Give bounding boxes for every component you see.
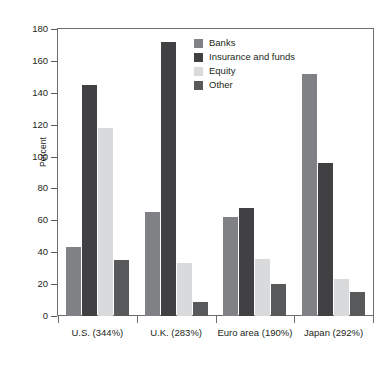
legend-item[interactable]: Other bbox=[194, 80, 295, 90]
legend-item[interactable]: Banks bbox=[194, 38, 295, 48]
legend-label: Banks bbox=[209, 38, 235, 48]
y-axis-tick-label: 120 bbox=[14, 120, 48, 130]
x-axis-tick-mark bbox=[58, 316, 59, 323]
y-axis-tick-label: 0 bbox=[14, 311, 48, 321]
bar[interactable] bbox=[350, 292, 365, 316]
y-axis-tick-label: 60 bbox=[14, 215, 48, 225]
x-axis-tick-label: U.S. (344%) bbox=[72, 327, 124, 338]
bar[interactable] bbox=[255, 259, 270, 316]
bar[interactable] bbox=[334, 279, 349, 316]
x-axis-tick-label: Japan (292%) bbox=[304, 327, 363, 338]
y-axis-tick-label: 20 bbox=[14, 279, 48, 289]
legend-label: Insurance and funds bbox=[209, 52, 295, 62]
legend-label: Equity bbox=[209, 66, 235, 76]
bar[interactable] bbox=[223, 217, 238, 316]
x-axis-tick-mark bbox=[294, 316, 295, 323]
bar[interactable] bbox=[114, 260, 129, 316]
bar-group bbox=[294, 29, 373, 316]
y-axis-tick-labels: 180160140120100806040200 bbox=[6, 0, 48, 366]
chart-legend: BanksInsurance and fundsEquityOther bbox=[194, 38, 295, 90]
legend-item[interactable]: Insurance and funds bbox=[194, 52, 295, 62]
x-axis-tick-mark bbox=[373, 316, 374, 323]
y-axis-tick-mark bbox=[51, 316, 57, 317]
bar-chart: Percent 180160140120100806040200 U.S. (3… bbox=[0, 0, 392, 366]
bar[interactable] bbox=[271, 284, 286, 316]
legend-item[interactable]: Equity bbox=[194, 66, 295, 76]
x-axis-tick-label: Euro area (190%) bbox=[217, 327, 292, 338]
bar[interactable] bbox=[161, 42, 176, 316]
bar[interactable] bbox=[66, 247, 81, 316]
y-axis-tick-label: 40 bbox=[14, 247, 48, 257]
bar[interactable] bbox=[82, 85, 97, 316]
bar[interactable] bbox=[98, 128, 113, 316]
bar[interactable] bbox=[239, 208, 254, 316]
legend-label: Other bbox=[209, 80, 233, 90]
y-axis-tick-label: 80 bbox=[14, 183, 48, 193]
bar[interactable] bbox=[318, 163, 333, 316]
bar[interactable] bbox=[193, 302, 208, 316]
legend-swatch-icon bbox=[194, 53, 203, 62]
y-axis-tick-label: 100 bbox=[14, 152, 48, 162]
bar[interactable] bbox=[145, 212, 160, 316]
bar[interactable] bbox=[177, 263, 192, 316]
y-axis-tick-label: 140 bbox=[14, 88, 48, 98]
x-axis-tick-mark bbox=[137, 316, 138, 323]
x-axis-tick-mark bbox=[216, 316, 217, 323]
legend-swatch-icon bbox=[194, 81, 203, 90]
legend-swatch-icon bbox=[194, 39, 203, 48]
y-axis-tick-label: 180 bbox=[14, 24, 48, 34]
bar[interactable] bbox=[302, 74, 317, 316]
bar-group bbox=[58, 29, 137, 316]
legend-swatch-icon bbox=[194, 67, 203, 76]
x-axis-tick-label: U.K. (283%) bbox=[150, 327, 202, 338]
y-axis-tick-label: 160 bbox=[14, 56, 48, 66]
